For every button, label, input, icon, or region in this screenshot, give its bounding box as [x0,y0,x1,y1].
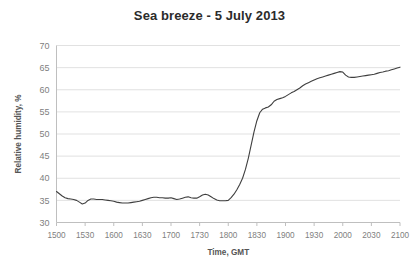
y-axis-tick-label: 30 [39,218,49,228]
x-axis-tick-label: 1500 [47,231,66,240]
data-series-line [57,67,401,204]
y-axis-tick-label: 70 [39,41,49,51]
x-axis-tick-label: 1830 [248,231,267,240]
y-axis-tick-label: 40 [39,173,49,183]
y-axis-tick-label: 55 [39,107,49,117]
chart-container: Sea breeze - 5 July 2013 303540455055606… [0,0,419,273]
x-axis-tick-label: 1730 [191,231,210,240]
y-axis-tick-label: 45 [39,151,49,161]
x-axis-tick-label: 2030 [362,231,381,240]
x-axis-tick-labels: 1500153016001630170017301800183019001930… [47,231,409,240]
y-axis-tick-label: 35 [39,196,49,206]
y-axis-title: Relative humidity, % [14,94,23,174]
y-axis-tick-label: 50 [39,129,49,139]
x-axis-tick-label: 1600 [105,231,124,240]
x-axis-tick-label: 1900 [276,231,295,240]
y-axis-tick-labels: 303540455055606570 [39,41,49,228]
x-axis-tick-label: 1630 [133,231,152,240]
y-axis-tick-label: 60 [39,85,49,95]
x-axis-tick-label: 2000 [334,231,353,240]
x-axis-tick-label: 1530 [76,231,95,240]
gridlines [57,46,401,201]
x-axis-tick-label: 1800 [219,231,238,240]
x-axis-tickmarks [57,223,401,227]
chart-plot-svg: 303540455055606570 150015301600163017001… [0,0,419,273]
x-axis-tick-label: 2100 [391,231,410,240]
x-axis-tick-label: 1700 [162,231,181,240]
x-axis-tick-label: 1930 [305,231,324,240]
x-axis-title: Time, GMT [207,248,249,257]
y-axis-tick-label: 65 [39,63,49,73]
